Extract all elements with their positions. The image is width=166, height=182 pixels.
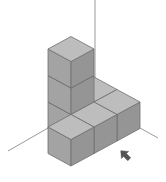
- isometric-cubes-figure: [0, 0, 166, 182]
- arrow-icon: [117, 147, 133, 163]
- axis-right-line: [140, 128, 158, 138]
- cube-stack: [48, 37, 140, 167]
- diagram-canvas: [0, 0, 166, 182]
- axis-left-line: [8, 128, 48, 151]
- view-direction-arrow-icon: [117, 147, 133, 163]
